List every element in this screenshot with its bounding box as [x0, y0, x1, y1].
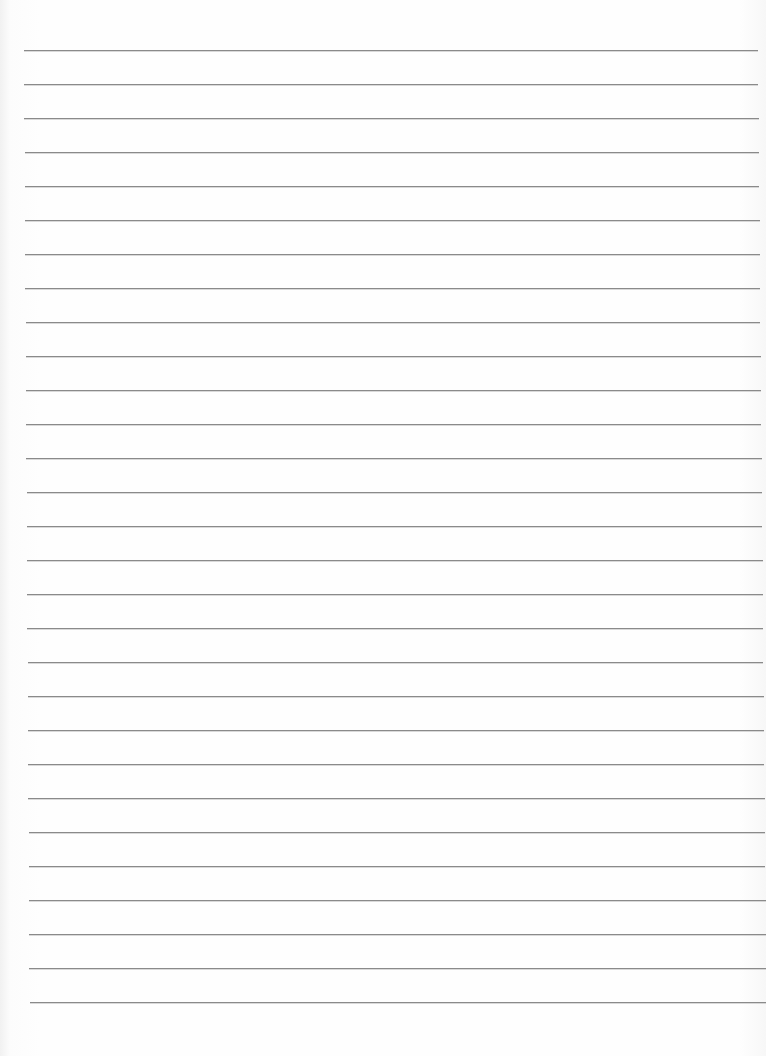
ruled-line [25, 186, 759, 187]
ruled-line [27, 492, 762, 493]
ruled-line [28, 662, 763, 663]
ruled-line [27, 594, 763, 595]
ruled-line [26, 356, 761, 357]
ruled-line [25, 288, 760, 289]
ruled-line [25, 220, 760, 221]
ruled-line [29, 900, 766, 901]
ruled-line [24, 50, 758, 51]
ruled-line [27, 560, 763, 561]
ruled-line [29, 934, 766, 935]
ruled-line [26, 458, 762, 459]
ruled-line [27, 526, 762, 527]
ruled-line [25, 152, 759, 153]
ruled-line [28, 696, 764, 697]
ruled-line [28, 730, 764, 731]
ruled-line [24, 84, 758, 85]
ruled-line [30, 1002, 766, 1003]
ruled-line [28, 798, 765, 799]
ruled-line [26, 322, 760, 323]
lined-paper-page [0, 0, 766, 1056]
ruled-line [29, 866, 765, 867]
ruled-line [25, 254, 760, 255]
ruled-line [29, 968, 766, 969]
ruled-line [28, 764, 764, 765]
ruled-line [29, 832, 765, 833]
ruled-line [27, 628, 763, 629]
ruled-line [26, 424, 761, 425]
ruled-line [26, 390, 761, 391]
ruled-line [24, 118, 759, 119]
